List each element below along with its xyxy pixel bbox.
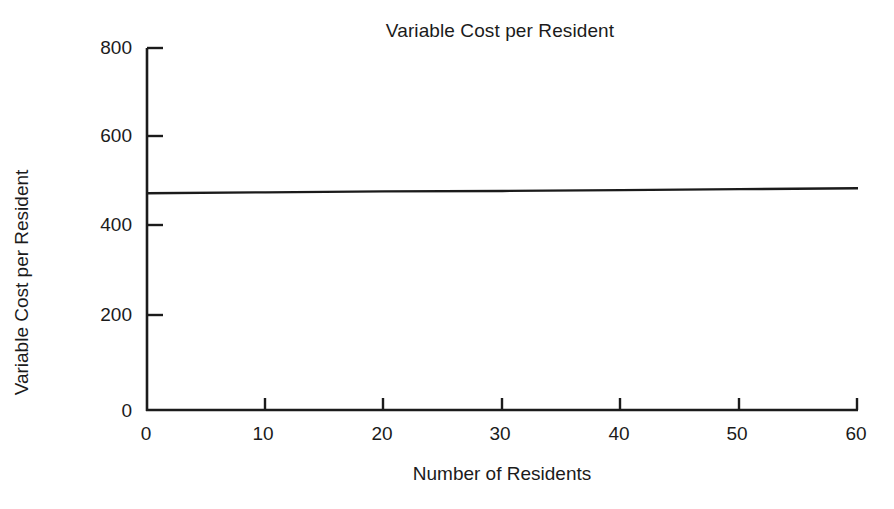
plot-area xyxy=(0,0,894,509)
data-line-variable-cost xyxy=(147,188,858,193)
y-axis-ticks xyxy=(147,48,163,315)
chart-figure: Variable Cost per Resident Variable Cost… xyxy=(0,0,894,509)
x-axis-ticks xyxy=(265,398,857,410)
